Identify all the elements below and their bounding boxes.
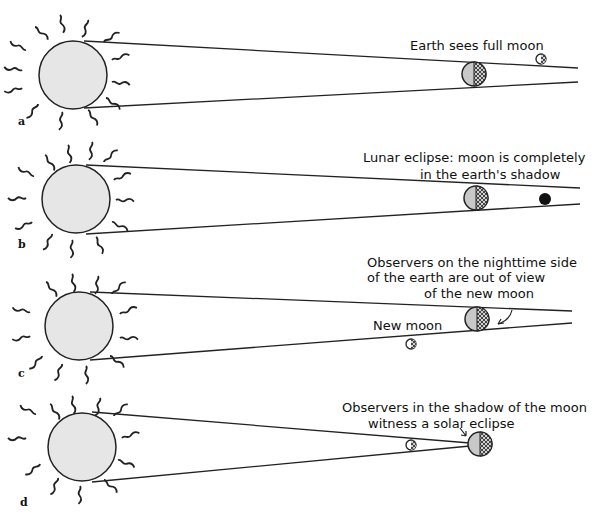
full-moon-icon (536, 54, 546, 64)
sun-icon (12, 274, 138, 384)
sun-icon (8, 142, 134, 258)
panel-label-b: b (18, 238, 26, 251)
annotation-c-line3: of the new moon (424, 286, 534, 301)
panel-label-c: c (18, 367, 25, 380)
panel-d: Observers in the shadow of the moon witn… (8, 396, 587, 509)
earth-icon (464, 186, 488, 210)
arrow-icon (498, 310, 512, 324)
annotation-b-line2: in the earth's shadow (420, 167, 561, 182)
eclipsed-moon-icon (539, 193, 551, 205)
sun-icon (8, 396, 140, 504)
new-moon-icon (406, 339, 416, 349)
annotation-d-line2: witness a solar eclipse (368, 416, 515, 431)
panel-label-d: d (20, 496, 28, 509)
sun-icon (4, 15, 130, 131)
panel-a: Earth sees full moon a (4, 15, 578, 131)
moon-icon (406, 440, 416, 450)
sun-earth-moon-diagram: Earth sees full moon a Lunar eclips (0, 0, 596, 518)
panel-label-a: a (18, 115, 25, 128)
panel-b: Lunar eclipse: moon is completely in the… (8, 142, 586, 258)
annotation-c-line1: Observers on the nighttime side (367, 255, 577, 270)
earth-icon (468, 432, 492, 456)
new-moon-label: New moon (373, 318, 442, 333)
annotation-d-line1: Observers in the shadow of the moon (342, 400, 587, 415)
annotation-b-line1: Lunar eclipse: moon is completely (363, 150, 586, 165)
panel-c: Observers on the nighttime side of the e… (12, 255, 577, 384)
annotation-a: Earth sees full moon (410, 38, 544, 53)
earth-icon (462, 62, 486, 86)
earth-icon (465, 307, 489, 331)
annotation-c-line2: of the earth are out of view (367, 270, 545, 285)
